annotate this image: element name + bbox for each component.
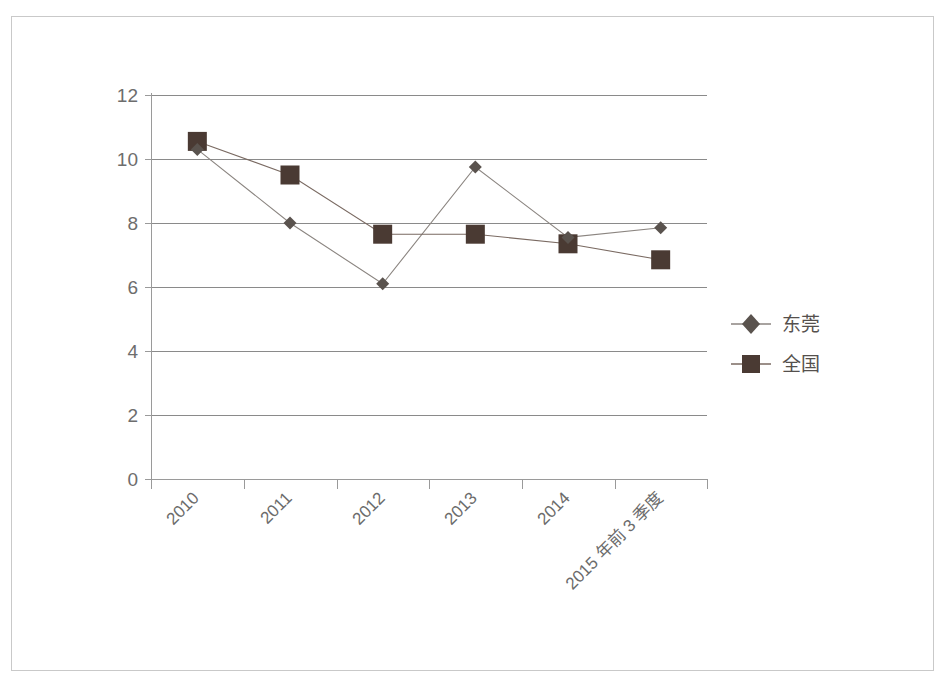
legend-label-dongguan: 东莞	[782, 314, 820, 335]
data-point-marker	[281, 166, 300, 185]
y-tick-label-2: 2	[127, 405, 138, 426]
x-tick-label-2012: 2012	[349, 488, 389, 528]
legend: 东莞 全国	[731, 314, 820, 375]
gridlines	[151, 95, 707, 479]
legend-item-national[interactable]: 全国	[731, 354, 820, 375]
y-tick-label-12: 12	[117, 85, 138, 106]
data-point-marker	[469, 161, 482, 174]
legend-label-national: 全国	[782, 354, 820, 375]
y-axis	[145, 93, 151, 481]
series-line-dongguan	[197, 149, 660, 283]
legend-item-dongguan[interactable]: 东莞	[731, 314, 820, 335]
x-tick-label-2010: 2010	[163, 488, 203, 528]
series-plot-layer	[188, 132, 670, 290]
figure-container: 12 10 8 6 4 2 0 2010 2011 2012 2013 2014	[0, 0, 945, 689]
x-tick-label-2013: 2013	[441, 488, 481, 528]
data-point-marker	[376, 277, 389, 290]
x-tick-label-2011: 2011	[257, 488, 296, 527]
x-axis	[151, 479, 707, 489]
y-tick-labels: 12 10 8 6 4 2 0	[117, 85, 139, 490]
data-point-marker	[651, 250, 670, 269]
y-tick-label-4: 4	[127, 341, 138, 362]
data-point-marker	[466, 225, 485, 244]
x-tick-label-2014: 2014	[534, 488, 574, 528]
data-point-marker	[284, 217, 297, 230]
data-point-marker	[373, 225, 392, 244]
y-tick-label-8: 8	[127, 213, 138, 234]
x-tick-labels: 2010 2011 2012 2013 2014 2015 年前 3 季度	[163, 488, 667, 593]
y-tick-label-6: 6	[127, 277, 138, 298]
x-tick-label-2015-q1-q3: 2015 年前 3 季度	[562, 488, 667, 593]
line-chart: 12 10 8 6 4 2 0 2010 2011 2012 2013 2014	[0, 0, 945, 689]
y-tick-label-0: 0	[127, 469, 138, 490]
y-tick-label-10: 10	[117, 149, 138, 170]
diamond-marker-icon	[742, 314, 760, 334]
square-marker-icon	[742, 355, 760, 373]
